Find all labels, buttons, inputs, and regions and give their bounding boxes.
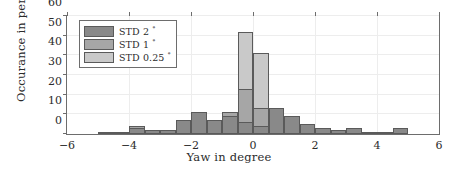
histogram-bar	[145, 130, 161, 134]
histogram-bar	[300, 124, 316, 134]
histogram-bar	[331, 130, 347, 134]
y-axis-tick-mark	[63, 74, 67, 75]
x-axis-tick-mark	[129, 12, 130, 16]
histogram-bar	[114, 132, 130, 134]
histogram-bar	[176, 120, 192, 134]
legend-label: STD 1 °	[119, 38, 156, 50]
y-axis-tick-mark	[63, 54, 67, 55]
y-axis-tick-label: 60	[48, 0, 62, 9]
histogram-bar	[269, 108, 285, 134]
histogram-bar	[346, 128, 362, 134]
legend-swatch	[84, 52, 114, 63]
legend: STD 2 °STD 1 °STD 0.25 °	[79, 20, 177, 68]
x-axis-tick-mark	[315, 12, 316, 16]
y-axis-tick-label: 50	[48, 16, 62, 29]
x-axis-tick-label: −4	[121, 139, 137, 152]
y-axis-title: Occurance in percent	[14, 0, 28, 102]
histogram-bar	[207, 120, 223, 134]
legend-label: STD 0.25 °	[119, 51, 171, 63]
histogram-bar	[253, 126, 269, 134]
x-axis-title: Yaw in degree	[0, 150, 458, 164]
plot-area: 0102030405060 −6−4−20246 STD 2 °STD 1 °S…	[66, 15, 440, 135]
histogram-bar	[129, 128, 145, 134]
legend-swatch	[84, 39, 114, 50]
histogram-bar	[160, 130, 176, 134]
y-axis-tick-mark	[63, 94, 67, 95]
x-axis-tick-label: 6	[436, 139, 443, 152]
x-axis-tick-mark	[377, 12, 378, 16]
histogram-bar	[393, 128, 409, 134]
legend-label: STD 2 °	[119, 25, 156, 37]
legend-item: STD 2 °	[84, 25, 171, 37]
x-axis-tick-label: 2	[312, 139, 319, 152]
histogram-bar	[98, 132, 114, 134]
histogram-bar	[284, 116, 300, 134]
y-axis-tick-mark	[63, 133, 67, 134]
legend-item: STD 0.25 °	[84, 51, 171, 63]
y-axis-tick-label: 30	[48, 55, 62, 68]
y-axis-tick-label: 40	[48, 36, 62, 49]
histogram-bar	[377, 132, 393, 134]
histogram-bar	[222, 116, 238, 134]
histogram-chart: Occurance in percent Yaw in degree 01020…	[0, 0, 458, 173]
x-axis-tick-label: −2	[183, 139, 199, 152]
y-axis-tick-label: 0	[55, 114, 62, 127]
y-axis-tick-mark	[63, 35, 67, 36]
x-axis-tick-mark	[67, 12, 68, 16]
x-axis-tick-mark	[439, 12, 440, 16]
histogram-bar	[191, 112, 207, 134]
histogram-bar	[362, 132, 378, 134]
x-axis-tick-label: −6	[59, 139, 75, 152]
x-axis-tick-label: 0	[250, 139, 257, 152]
legend-swatch	[84, 26, 114, 37]
histogram-bar	[238, 122, 254, 134]
y-axis-tick-label: 20	[48, 75, 62, 88]
y-axis-tick-mark	[63, 113, 67, 114]
y-axis-tick-label: 10	[48, 95, 62, 108]
x-axis-tick-label: 4	[374, 139, 381, 152]
histogram-bar	[315, 128, 331, 134]
x-axis-tick-mark	[253, 12, 254, 16]
x-axis-tick-mark	[191, 12, 192, 16]
legend-item: STD 1 °	[84, 38, 171, 50]
